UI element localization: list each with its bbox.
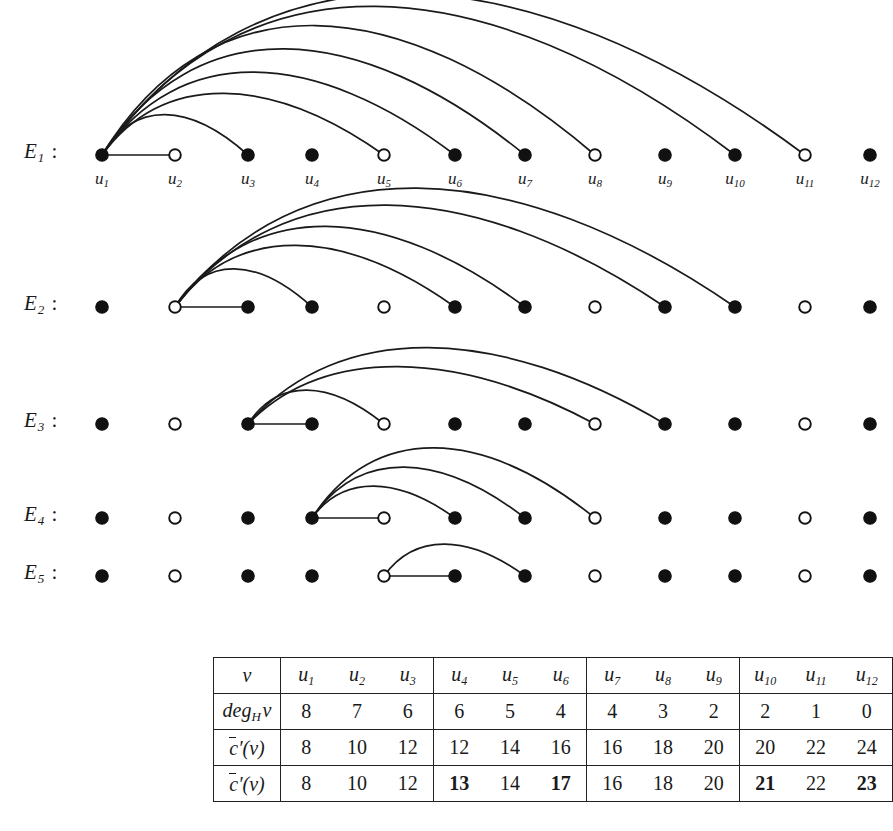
vertex-open[interactable] (169, 418, 181, 430)
vertex-open[interactable] (589, 149, 601, 161)
vertex-filled[interactable] (864, 418, 876, 430)
table-cell-degree-u1: 8 (281, 700, 332, 723)
vertex-label-subscript: 4 (314, 177, 320, 189)
edge-arc (175, 205, 665, 307)
vertex-open[interactable] (169, 149, 181, 161)
vertex-filled[interactable] (242, 512, 254, 524)
vertex-filled[interactable] (864, 512, 876, 524)
vertex-filled[interactable] (659, 512, 671, 524)
vertex-open[interactable] (169, 301, 181, 313)
vertex-label-base: u (241, 169, 250, 188)
table-cell-c2-u4: 13 (434, 772, 485, 795)
vertex-filled[interactable] (449, 149, 461, 161)
table-cell-c2-u12: 23 (841, 772, 892, 795)
table-cell-c1-u5: 14 (485, 736, 536, 759)
vertex-filled[interactable] (729, 149, 741, 161)
vertex-label-base: u (95, 169, 104, 188)
vertex-filled[interactable] (449, 418, 461, 430)
vertex-label-subscript: 9 (667, 177, 673, 189)
vertex-filled[interactable] (729, 512, 741, 524)
table-col-header-u2: u2 (332, 663, 383, 689)
vertex-filled[interactable] (96, 512, 108, 524)
vertex-filled[interactable] (519, 149, 531, 161)
table-group-cell: 161820 (587, 766, 740, 802)
table-rowhead-c1: c′(v) (214, 730, 281, 766)
vertex-filled[interactable] (659, 301, 671, 313)
table-col-header-u5: u5 (485, 663, 536, 689)
table-cell-c2-u8: 18 (638, 772, 689, 795)
vertex-filled[interactable] (96, 418, 108, 430)
vertex-open[interactable] (378, 512, 390, 524)
vertex-filled[interactable] (729, 301, 741, 313)
vertex-filled[interactable] (449, 301, 461, 313)
vertex-label-subscript: 11 (804, 177, 814, 189)
row-label-colon: : (51, 291, 57, 315)
col-header-base: u (553, 663, 563, 685)
vertex-label-u7: u7 (518, 169, 532, 189)
degree-label-variable: v (261, 699, 272, 721)
vertex-filled[interactable] (306, 570, 318, 582)
vertex-filled[interactable] (306, 512, 318, 524)
vertex-filled[interactable] (306, 418, 318, 430)
vertex-open[interactable] (378, 301, 390, 313)
col-header-subscript: 7 (614, 673, 620, 687)
edge-arc (175, 188, 735, 307)
vertex-open[interactable] (378, 149, 390, 161)
vertex-filled[interactable] (519, 512, 531, 524)
vertex-filled[interactable] (306, 301, 318, 313)
table-cell-c2-u1: 8 (281, 772, 332, 795)
vertex-filled[interactable] (242, 301, 254, 313)
vertex-open[interactable] (589, 512, 601, 524)
vertex-filled[interactable] (96, 570, 108, 582)
col-header-subscript: 3 (410, 673, 416, 687)
vertex-open[interactable] (799, 418, 811, 430)
edge-row-E1 (96, 0, 876, 161)
vertex-open[interactable] (589, 301, 601, 313)
vertex-label-u5: u5 (377, 169, 391, 189)
vertex-filled[interactable] (864, 301, 876, 313)
vertex-filled[interactable] (519, 570, 531, 582)
vertex-filled[interactable] (449, 570, 461, 582)
vertex-filled[interactable] (519, 301, 531, 313)
vertex-open[interactable] (799, 512, 811, 524)
vertex-filled[interactable] (864, 149, 876, 161)
vertex-filled[interactable] (242, 418, 254, 430)
vertex-label-u10: u10 (725, 169, 745, 189)
vertex-filled[interactable] (306, 149, 318, 161)
vertex-open[interactable] (378, 570, 390, 582)
vertex-filled[interactable] (242, 570, 254, 582)
vertex-filled[interactable] (659, 149, 671, 161)
col-header-subscript: 5 (512, 673, 518, 687)
vertex-filled[interactable] (449, 512, 461, 524)
vertex-label-u1: u1 (95, 169, 109, 189)
vertex-open[interactable] (378, 418, 390, 430)
vertex-filled[interactable] (96, 149, 108, 161)
table-cell-c1-u4: 12 (434, 736, 485, 759)
table-group-cell: 654 (434, 694, 587, 730)
vertex-filled[interactable] (729, 570, 741, 582)
vertex-label-subscript: 8 (597, 177, 603, 189)
table-cell-degree-u6: 4 (535, 700, 586, 723)
table-cell-c1-u7: 16 (587, 736, 638, 759)
vertex-filled[interactable] (864, 570, 876, 582)
vertex-label-base: u (448, 169, 457, 188)
vertex-open[interactable] (169, 570, 181, 582)
vertex-open[interactable] (799, 570, 811, 582)
vertex-open[interactable] (589, 570, 601, 582)
vertex-filled[interactable] (96, 301, 108, 313)
vertex-filled[interactable] (659, 570, 671, 582)
vertex-filled[interactable] (242, 149, 254, 161)
vertex-open[interactable] (799, 301, 811, 313)
cbar-prime-arg: ′(v) (238, 737, 265, 759)
edge-arc (102, 72, 455, 155)
vertex-open[interactable] (799, 149, 811, 161)
vertex-filled[interactable] (519, 418, 531, 430)
vertex-filled[interactable] (729, 418, 741, 430)
vertex-open[interactable] (589, 418, 601, 430)
table-group-cell: 121416 (434, 730, 587, 766)
vertex-open[interactable] (169, 512, 181, 524)
vertex-filled[interactable] (659, 418, 671, 430)
vertex-label-base: u (725, 169, 734, 188)
table-cell-c2-u9: 20 (688, 772, 739, 795)
vertex-label-u11: u11 (796, 169, 815, 189)
